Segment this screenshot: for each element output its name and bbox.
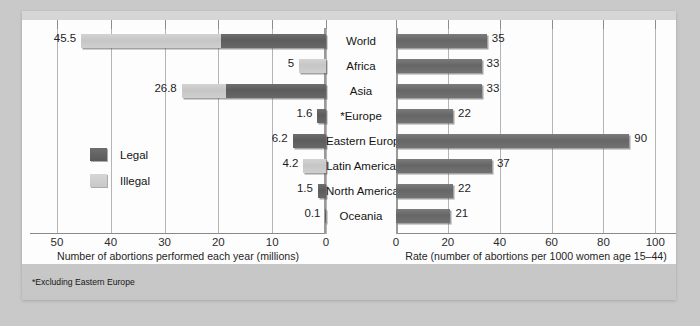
axis-tick-label: 20 bbox=[441, 236, 454, 248]
bar-value-label: 33 bbox=[482, 82, 500, 94]
bar[interactable] bbox=[396, 34, 487, 48]
bar-value-label: 26.8 bbox=[154, 82, 181, 94]
category-label: Latin America bbox=[326, 160, 396, 172]
bar[interactable] bbox=[318, 184, 326, 198]
bar-value-label: 1.5 bbox=[297, 182, 318, 194]
bar-value-label: 0.1 bbox=[304, 207, 325, 219]
bar[interactable] bbox=[396, 209, 450, 223]
axis-tick-label: 40 bbox=[104, 236, 117, 248]
chart-abortions-millions: 45.5526.81.66.24.21.50.1 50403020100 Num… bbox=[30, 20, 326, 264]
category-label: *Europe bbox=[326, 110, 396, 122]
axis-baseline bbox=[30, 233, 326, 234]
axis-tick-label: 100 bbox=[646, 236, 665, 248]
bar-segment-rate bbox=[396, 59, 482, 73]
bar-segment-legal bbox=[318, 184, 326, 198]
axis-tick-label: 0 bbox=[323, 236, 329, 248]
bar[interactable] bbox=[396, 59, 482, 73]
bar-row: 45.5 bbox=[30, 34, 326, 48]
legend-swatch-legal bbox=[90, 148, 107, 161]
bar[interactable] bbox=[396, 184, 453, 198]
bar-row: 0.1 bbox=[30, 209, 326, 223]
bar-segment-legal bbox=[221, 34, 326, 48]
axis-tick-label: 0 bbox=[393, 236, 399, 248]
bar-row: 22 bbox=[396, 184, 676, 198]
bar-row: 21 bbox=[396, 209, 676, 223]
bar-value-label: 45.5 bbox=[54, 32, 81, 44]
category-label: Oceania bbox=[326, 210, 396, 222]
bar-segment-rate bbox=[396, 34, 487, 48]
bar-row: 22 bbox=[396, 109, 676, 123]
bar-row: 5 bbox=[30, 59, 326, 73]
legend-swatch-illegal bbox=[90, 174, 107, 187]
axis-tick bbox=[603, 20, 604, 29]
bar[interactable] bbox=[303, 159, 326, 173]
legend-item-illegal: Illegal bbox=[90, 174, 150, 187]
right-axis-title: Rate (number of abortions per 1000 women… bbox=[396, 250, 676, 262]
axis-tick bbox=[57, 20, 58, 29]
bar-row: 1.6 bbox=[30, 109, 326, 123]
axis-baseline bbox=[396, 233, 676, 234]
category-label: Eastern Europe bbox=[326, 135, 396, 147]
bar[interactable] bbox=[299, 59, 326, 73]
axis-tick bbox=[218, 20, 219, 29]
bar-segment-rate bbox=[396, 209, 450, 223]
left-axis-title: Number of abortions performed each year … bbox=[30, 250, 326, 262]
category-axis: WorldAfricaAsia*EuropeEastern EuropeLati… bbox=[326, 20, 396, 234]
right-plot-area: 3533332290372221 bbox=[396, 20, 676, 234]
bar-segment-rate bbox=[396, 84, 482, 98]
axis-tick-label: 10 bbox=[266, 236, 279, 248]
bar[interactable] bbox=[182, 84, 326, 98]
axis-tick bbox=[272, 20, 273, 29]
bar-segment-legal bbox=[317, 109, 326, 123]
bar[interactable] bbox=[396, 159, 492, 173]
bar-value-label: 1.6 bbox=[296, 107, 317, 119]
category-label: Asia bbox=[326, 85, 396, 97]
bar[interactable] bbox=[396, 134, 629, 148]
bar[interactable] bbox=[396, 109, 453, 123]
bar-row: 35 bbox=[396, 34, 676, 48]
bar-value-label: 22 bbox=[453, 182, 471, 194]
axis-tick bbox=[448, 20, 449, 29]
bar-segment-illegal bbox=[81, 34, 221, 48]
left-plot-area: 45.5526.81.66.24.21.50.1 bbox=[30, 20, 326, 234]
bar[interactable] bbox=[293, 134, 326, 148]
category-label: North America bbox=[326, 185, 396, 197]
bar-row: 90 bbox=[396, 134, 676, 148]
footnote: *Excluding Eastern Europe bbox=[32, 277, 135, 287]
category-label: World bbox=[326, 35, 396, 47]
legend-label-illegal: Illegal bbox=[120, 175, 150, 187]
bar-row: 6.2 bbox=[30, 134, 326, 148]
axis-tick-label: 60 bbox=[545, 236, 558, 248]
bar[interactable] bbox=[317, 109, 326, 123]
bar-row: 4.2 bbox=[30, 159, 326, 173]
axis-tick-label: 40 bbox=[493, 236, 506, 248]
legend-label-legal: Legal bbox=[120, 149, 148, 161]
bar-row: 33 bbox=[396, 59, 676, 73]
bar-segment-illegal bbox=[299, 59, 326, 73]
bar-value-label: 37 bbox=[492, 157, 510, 169]
bar-segment-legal bbox=[226, 84, 326, 98]
bar-value-label: 4.2 bbox=[282, 157, 303, 169]
axis-tick bbox=[552, 20, 553, 29]
axis-tick-label: 80 bbox=[597, 236, 610, 248]
bar-segment-legal bbox=[293, 134, 326, 148]
bar-value-label: 33 bbox=[482, 57, 500, 69]
axis-tick bbox=[111, 20, 112, 29]
bar-row: 33 bbox=[396, 84, 676, 98]
bar[interactable] bbox=[81, 34, 326, 48]
bar-segment-illegal bbox=[303, 159, 326, 173]
axis-tick-label: 30 bbox=[158, 236, 171, 248]
bar-segment-illegal bbox=[182, 84, 227, 98]
bar[interactable] bbox=[396, 84, 482, 98]
axis-tick-label: 50 bbox=[51, 236, 64, 248]
bar-segment-rate bbox=[396, 134, 629, 148]
axis-tick bbox=[655, 20, 656, 29]
plot-card: 45.5526.81.66.24.21.50.1 50403020100 Num… bbox=[22, 20, 676, 264]
bar-value-label: 90 bbox=[629, 132, 647, 144]
axis-tick bbox=[500, 20, 501, 29]
bar-segment-rate bbox=[396, 184, 453, 198]
bar-value-label: 5 bbox=[288, 57, 299, 69]
bar-row: 37 bbox=[396, 159, 676, 173]
axis-tick bbox=[165, 20, 166, 29]
legend: Legal Illegal bbox=[90, 148, 150, 200]
